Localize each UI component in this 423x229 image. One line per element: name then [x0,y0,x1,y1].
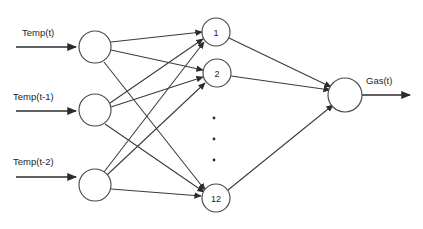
edges-hidden-to-output [228,38,333,190]
edge-hid-1-to-out-1 [229,38,331,87]
hidden-node-label-hid-2: 2 [214,69,219,79]
input-label-input-arrow-1: Temp(t) [22,27,54,38]
edge-in-3-to-hid-1 [104,42,204,172]
hidden-layer-nodes: 1212 [202,18,231,212]
edge-in-3-to-hid-2 [107,83,205,175]
ellipsis-dot-1 [213,117,216,120]
edge-in-2-to-hid-12 [105,124,204,192]
hidden-layer-ellipsis [213,117,216,162]
ellipsis-dot-2 [213,138,216,141]
input-node-in-2[interactable] [79,94,111,126]
edge-in-2-to-hid-1 [110,39,203,103]
edges-input-to-hidden [104,32,205,196]
edge-hid-2-to-out-1 [231,76,330,90]
edge-hid-12-to-out-1 [228,105,333,190]
hidden-node-label-hid-1: 1 [213,28,218,38]
edge-in-1-to-hid-1 [111,32,202,42]
edge-in-3-to-hid-12 [111,189,201,196]
input-label-input-arrow-2: Temp(t-1) [13,91,54,102]
output-layer-nodes [328,78,362,112]
output-label-output-arrow-1: Gas(t) [366,75,392,86]
diagram-canvas: 1212 Temp(t)Temp(t-1)Temp(t-2)Gas(t) [0,0,423,229]
output-node-out-1[interactable] [328,78,362,112]
input-node-in-3[interactable] [79,169,111,201]
input-layer-nodes [79,31,111,201]
hidden-node-label-hid-12: 12 [211,194,221,204]
edge-in-1-to-hid-2 [111,50,203,70]
input-label-input-arrow-3: Temp(t-2) [13,156,54,167]
neural-network-diagram: 1212 Temp(t)Temp(t-1)Temp(t-2)Gas(t) [0,0,423,229]
ellipsis-dot-3 [213,159,216,162]
input-node-in-1[interactable] [79,31,111,63]
